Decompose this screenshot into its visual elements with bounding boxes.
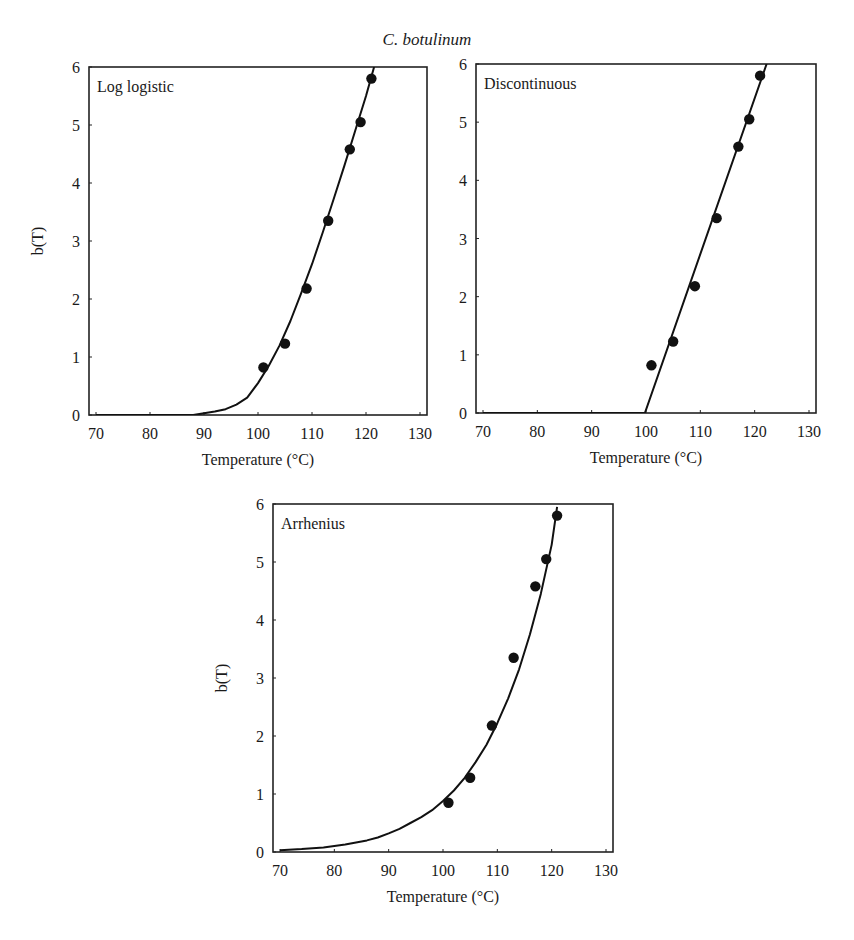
y-tick-label: 2	[256, 728, 264, 745]
data-point	[465, 773, 475, 783]
x-tick-label: 100	[431, 862, 455, 879]
y-tick-label: 4	[256, 612, 264, 629]
data-point	[487, 720, 497, 730]
y-tick-label: 5	[256, 554, 264, 571]
data-point	[443, 798, 453, 808]
y-tick-label: 0	[256, 844, 264, 861]
y-tick-label: 6	[256, 496, 264, 513]
x-tick-label: 80	[326, 862, 342, 879]
x-tick-label: 70	[272, 862, 288, 879]
x-tick-label: 90	[381, 862, 397, 879]
x-axis-label: Temperature (°C)	[387, 888, 499, 906]
data-point	[541, 554, 551, 564]
y-tick-label: 3	[256, 670, 264, 687]
y-tick-label: 1	[256, 786, 264, 803]
data-point	[530, 581, 540, 591]
data-point	[508, 653, 518, 663]
fit-curve	[280, 507, 557, 850]
chart-arrhenius: 7080901001101201300123456Temperature (°C…	[0, 0, 854, 940]
x-tick-label: 110	[486, 862, 509, 879]
data-point	[552, 510, 562, 520]
y-axis-label: b(T)	[213, 664, 231, 692]
x-tick-label: 120	[540, 862, 564, 879]
x-tick-label: 130	[594, 862, 618, 879]
panel-label: Arrhenius	[281, 515, 345, 532]
